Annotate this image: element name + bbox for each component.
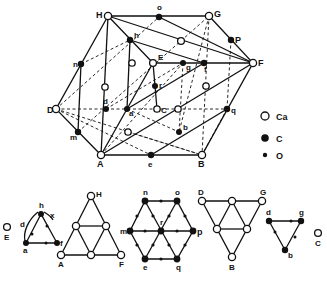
- atom-B: [198, 151, 205, 158]
- label-m-sub: m: [120, 227, 127, 236]
- legend-o-icon: [263, 153, 267, 157]
- atom-q-sub: [174, 256, 181, 263]
- main-structure-diagram: H o G P F h E g f n r D d a C q m b A e …: [47, 3, 264, 169]
- subdiagram-hexagon: n o m r p e q: [120, 188, 203, 272]
- atom-ca: [125, 129, 131, 135]
- label-p-sub: p: [197, 227, 203, 237]
- inner-edge: [76, 226, 91, 255]
- legend-ca-icon: [261, 112, 269, 120]
- atom-H: [104, 12, 111, 19]
- atom-h-small: [38, 211, 44, 217]
- atom-o-small: [31, 233, 34, 236]
- atom-ca: [203, 83, 209, 89]
- atom-ca: [213, 225, 220, 232]
- atom-A: [97, 151, 104, 158]
- atom-ca: [87, 251, 94, 258]
- calcite-structure-figure: H o G P F h E g f n r D d a C q m b A e …: [0, 0, 327, 282]
- label-G: G: [214, 9, 221, 19]
- atom-d-sub: [266, 218, 272, 224]
- label-D-sub: D: [198, 188, 204, 197]
- label-C-side: C: [315, 239, 321, 248]
- label-F-sub: F: [119, 260, 124, 269]
- label-o: o: [157, 3, 162, 12]
- inner-edge: [91, 226, 106, 255]
- inner-edge: [217, 201, 232, 229]
- atom-G: [205, 12, 212, 19]
- atom-D-sub: [198, 197, 205, 204]
- atom-r: [152, 83, 158, 89]
- atom-b: [176, 129, 182, 135]
- atom-e: [148, 152, 154, 158]
- label-F: F: [258, 58, 264, 68]
- atom-o-small: [274, 231, 277, 234]
- atom-g-sub: [298, 218, 304, 224]
- label-e: e: [148, 160, 153, 169]
- label-h-small: h: [39, 201, 44, 210]
- atom-ca: [178, 38, 185, 45]
- label-C: C: [161, 106, 167, 115]
- atom-ca: [228, 197, 235, 204]
- label-h: h: [134, 31, 139, 40]
- atom-q: [224, 106, 230, 112]
- atom-d: [103, 106, 109, 112]
- subdiagram-triangle-DGB: D G B: [198, 188, 266, 272]
- atom-P: [228, 37, 234, 43]
- atom-F: [249, 59, 256, 66]
- subdiagram-triangle-ahf: E h d x a f: [4, 201, 63, 255]
- atom-o: [156, 14, 162, 20]
- subdiagram-triangle-HAF: H A F: [57, 190, 124, 269]
- atom-n-sub: [142, 198, 149, 205]
- label-x-small: x: [50, 211, 55, 220]
- label-d-sub: d: [266, 208, 271, 217]
- label-q-sub: q: [176, 263, 181, 272]
- atom-ca: [175, 106, 181, 112]
- label-b: b: [183, 123, 188, 132]
- label-g-sub: g: [299, 208, 304, 217]
- label-d-small: d: [20, 220, 25, 229]
- label-e-sub: e: [143, 263, 148, 272]
- c-atoms: [75, 14, 234, 158]
- atom-C-side: [315, 230, 322, 237]
- label-f-small: f: [60, 239, 63, 248]
- legend: Ca C O: [261, 112, 288, 161]
- legend-ca-label: Ca: [276, 112, 288, 122]
- label-r-sub: r: [160, 218, 163, 227]
- atom-H-sub: [87, 192, 94, 199]
- atom-o-small: [294, 236, 297, 239]
- label-q: q: [231, 106, 236, 115]
- inner-edge: [232, 201, 247, 229]
- legend-o-label: O: [276, 151, 283, 161]
- atom-ca: [72, 222, 79, 229]
- legend-c-icon: [261, 134, 269, 142]
- label-G-sub: G: [260, 188, 266, 197]
- atom-e-sub: [142, 256, 149, 263]
- atom-h: [127, 37, 133, 43]
- label-A: A: [97, 159, 104, 169]
- atom-m-sub: [127, 228, 134, 235]
- label-d: d: [103, 97, 108, 106]
- arc-d: [25, 212, 38, 241]
- atom-F-sub: [117, 251, 124, 258]
- label-o-sub: o: [175, 188, 180, 197]
- label-E: E: [158, 53, 164, 62]
- label-P: P: [235, 35, 241, 45]
- atom-B-sub: [228, 253, 235, 260]
- atom-ca: [243, 225, 250, 232]
- atom-p-sub: [190, 228, 197, 235]
- atom-ca: [102, 84, 108, 90]
- atom-G-sub: [258, 197, 265, 204]
- atom-A-sub: [57, 251, 64, 258]
- atom-n: [78, 61, 84, 67]
- atom-o-small: [290, 220, 293, 223]
- legend-c-label: C: [276, 134, 283, 144]
- label-f: f: [204, 65, 207, 74]
- atom-o-small: [45, 242, 48, 245]
- atom-C: [154, 106, 160, 112]
- label-r: r: [159, 81, 162, 90]
- label-n: n: [73, 60, 78, 69]
- label-H-sub: H: [96, 190, 102, 199]
- atom-r-sub: [158, 228, 165, 235]
- atom-ca: [102, 222, 109, 229]
- label-D: D: [47, 105, 54, 115]
- label-a-small: a: [23, 246, 28, 255]
